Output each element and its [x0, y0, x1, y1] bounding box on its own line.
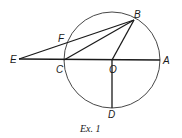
label-c: C — [56, 64, 64, 75]
label-o: O — [109, 64, 117, 75]
label-b: B — [134, 9, 141, 20]
label-d: D — [108, 109, 115, 120]
label-a: A — [162, 55, 170, 66]
label-e: E — [10, 54, 17, 65]
figure-caption: Ex. 1 — [79, 123, 101, 134]
label-f: F — [58, 33, 65, 44]
geometry-figure: B F E C O A D Ex. 1 — [0, 0, 182, 138]
segment-ea — [19, 59, 160, 60]
